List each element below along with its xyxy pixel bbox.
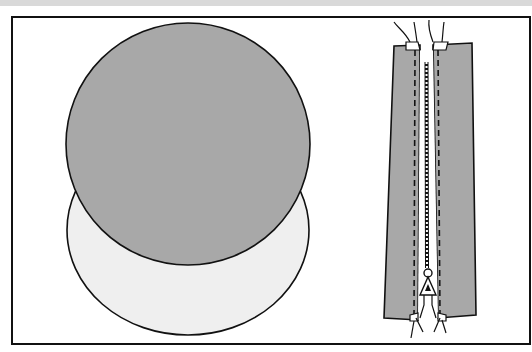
fabric-circle-front (66, 23, 310, 265)
top-left-tab (406, 42, 420, 50)
sewing-diagram (0, 0, 532, 352)
top-right-tab (433, 42, 448, 50)
zipper-panel (384, 20, 476, 338)
zipper-teeth (427, 62, 428, 268)
